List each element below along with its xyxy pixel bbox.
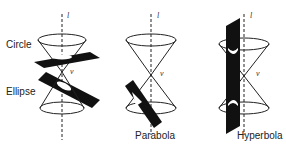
label-hyperbola: Hyperbola [237,131,283,141]
axis-label-3: l [250,12,252,20]
double-cone-hyperbola [219,14,269,135]
vertex-label-1: v [70,68,74,76]
axis-label-2: l [157,12,159,20]
vertex-label-2: v [160,70,164,78]
label-ellipse: Ellipse [6,87,35,97]
label-circle: Circle [6,40,32,50]
double-cone-circle-ellipse [34,14,100,140]
axis-label-1: l [67,12,69,20]
double-cone-parabola [125,14,176,135]
label-parabola: Parabola [135,131,175,141]
vertex-label-3: v [256,70,260,78]
conic-sections-diagram: Circle Ellipse Parabola Hyperbola l l l … [0,0,286,152]
